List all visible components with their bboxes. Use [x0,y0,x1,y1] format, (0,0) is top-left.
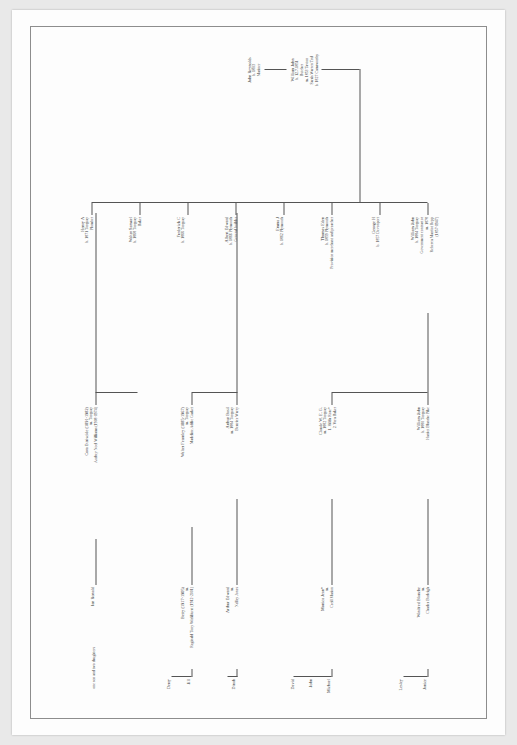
connector-gen6-run-3 [191,669,192,677]
connector-gen6-spine-3 [171,676,191,677]
connector-gen4-tick-a0 [427,393,428,405]
node-gen3-thomas-eden: Thomas Eden b. 1859 Plymouth Provision m… [319,217,334,325]
gen5-0-name: Winifred Blanche [415,587,420,669]
gen2-birth: b. 12.7.1851 [294,17,299,123]
node-gen5-arthur-edward: Arthur Edward m. Nelley Jones [224,587,239,669]
node-gen4-walter-fearnley: Walter Fearnley (1885-1967) m. Torquay M… [179,407,194,527]
connector-gen3-tick-7 [427,203,428,215]
gen5-1-name: Monica Jean* [319,587,324,669]
gen4-3-spouse: Madeline Addie Gasket [189,407,194,527]
gen3-7-occupation: Government contractor [419,217,424,325]
gen2-marriage: m. 1853 Tavton [304,17,309,123]
connector-gen5-run-2 [236,499,237,573]
node-gen6-michael: Michael [325,679,330,723]
connector-gen2-stem [321,69,359,70]
gen3-4-birth: b. 1862 Plymouth [279,217,284,305]
connector-gen6-run-1 [331,669,332,677]
node-gen5-monica-jean: Monica Jean* m. Cecil Marion [319,587,334,669]
gen6-1-name: Lesley [397,679,402,723]
node-gen6-dinah: Dinah [230,679,235,723]
gen3-6-birth: b. 1857 Devonport [375,217,380,305]
gen3-5-birth: b. 1859 Plymouth [324,217,329,325]
connector-root-stem [264,69,286,70]
gen5-2-name: Arthur Edward [224,587,229,669]
gen6-3-name: John [307,679,312,723]
gen4-4-spouse: Audrey Noel Williams (1908-1974) [93,407,98,539]
gen3-7-spouse-dates: (1857-1947) [434,217,439,325]
connector-gen5-tick-3 [191,573,192,585]
connector-gen3-tick-0 [91,203,92,215]
gen3-7-marriage: m. 1878 [424,217,429,325]
gen4-1-name: Claude W. E. G. [317,407,322,501]
node-gen2-william-john: William John b. 12.7.1851 Butcher m. 185… [289,17,319,123]
gen4-3-name: Walter Fearnley (1885-1967) [179,407,184,527]
root-birth: b. 1803 [251,35,256,105]
node-gen3-henry-a: Henry A b. 1871 Torquay Plumber [79,217,94,305]
paper-sheet: John Reynolds b. 1803 Mariner William Jo… [12,10,505,735]
gen6-ian-note: one son and two daughters [91,647,96,723]
gen6-4-name: David [289,679,294,723]
node-gen3-george-h: George H b. 1857 Devonport [370,217,380,305]
connector-gen3-tick-1 [139,203,140,215]
node-gen4-cora-ettriscide: Cora Ettriscide (1891-1982) m. Torquay A… [83,407,98,539]
connector-gen5-tick-4 [95,573,96,585]
gen4-1-spouse2: 2. Vera Baker [332,407,337,501]
connector-gen6-run-2 [236,669,237,677]
node-gen6-lesley: Lesley [397,679,402,723]
node-gen6-janice: Janice [421,679,426,723]
connector-gen4-tick-b0 [236,393,237,405]
gen5-2-spouse: Nelley Jones [234,587,239,669]
gen3-3-birth: b. 1866 Plymouth [228,217,233,305]
connector-gen3-tick-5 [331,203,332,215]
connector-gen5-run-3 [191,527,192,573]
gen3-6-name: George H [370,217,375,305]
connector-gen5-run-0 [427,499,428,573]
gen5-0-spouse: Charles Burleigh [425,587,430,669]
connector-gen5-run-1 [331,499,332,573]
gen3-5-occupation: Provision merchant and preacher [329,217,334,325]
node-gen4-claude-weg: Claude W. E. G. m. 1882 Torquay 1. Hilda… [317,407,337,501]
gen3-3-name: Albert Edward [223,217,228,305]
node-gen6-jill: Jill [185,679,190,723]
gen4-2-name: Arthur Basil [224,407,229,501]
node-gen3-emma-j: Emma J b. 1862 Plymouth [274,217,284,305]
gen2-occupation: Butcher [299,17,304,123]
gen3-0-birth: b. 1871 Torquay [84,217,89,305]
connector-gen4-spine-a [331,392,427,393]
screenshot-page: John Reynolds b. 1803 Mariner William Jo… [0,0,517,745]
gen6-0-name: Janice [421,679,426,723]
gen4-2-marriage: m. 1884 Torquay [229,407,234,501]
gen2-name: William John [289,17,294,123]
node-gen5-ian-ronald: Ian Ronald [89,587,94,651]
node-gen6-ian-ronald-issue-note: one son and two daughters [91,647,96,723]
node-gen3-walter-samuel: Walter Samuel b. 1868 Torquay Baker [127,217,142,305]
connector-gen6-run-0 [427,669,428,677]
gen4-3-marriage: m. Torquay [184,407,189,527]
node-gen3-frederick-c: Frederick C b. 1866 Torquay [175,217,185,305]
connector-gen4-spine-b [191,392,237,393]
gen2-spouse-birth: b. 1827 Camsworthy [314,17,319,123]
connector-gen5-tick-0 [427,573,428,585]
gen5-1-marriage: m. [324,587,329,669]
node-root-john-reynolds: John Reynolds b. 1803 Mariner [246,35,261,105]
connector-gen4-tick-a1 [331,393,332,405]
gen4-1-marriage: m. 1882 Torquay [322,407,327,501]
node-gen5-winifred-blanche: Winifred Blanche m. Charles Burleigh [415,587,430,669]
connector-gen4-spine-c [95,392,137,393]
gen5-2-marriage: m. [229,587,234,669]
connector-gen3-tick-2 [187,203,188,215]
gen3-2-birth: b. 1866 Torquay [180,217,185,305]
connector-gen4-run-c [95,213,96,393]
gen6-2-name: Michael [325,679,330,723]
root-name: John Reynolds [246,35,251,105]
node-gen4-arthur-basil: Arthur Basil m. 1884 Torquay Beatrice Wa… [224,407,239,501]
connector-gen4-run-b [236,213,237,393]
family-tree-canvas: John Reynolds b. 1803 Mariner William Jo… [31,23,486,723]
node-gen6-david: David [289,679,294,723]
gen4-4-name: Cora Ettriscide (1891-1982) [83,407,88,539]
connector-gen3-tick-4 [283,203,284,215]
connector-gen6-spine-2 [227,676,237,677]
gen4-0-birth: b. 1880 Torquay [420,407,425,501]
gen3-7-spouse: Rebecca Marriot Repp [429,217,434,325]
node-gen3-william-john: William John b. 1884 Torquay Government … [409,217,439,325]
